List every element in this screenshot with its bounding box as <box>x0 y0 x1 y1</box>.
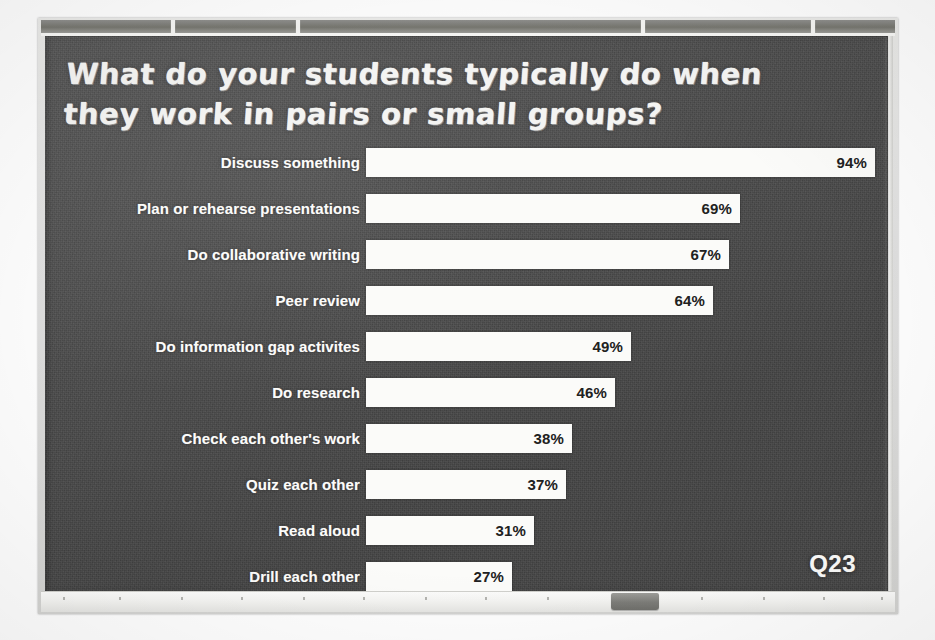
tray-tick <box>763 597 765 600</box>
bar-category-label: Plan or rehearse presentations <box>45 194 360 223</box>
bar-category-label: Do collaborative writing <box>45 240 360 269</box>
bar: 67% <box>366 240 729 269</box>
bar-category-label: Check each other's work <box>45 424 360 453</box>
tray-tick <box>241 597 243 600</box>
chart-row: Plan or rehearse presentations69% <box>45 194 888 240</box>
tray-tick <box>881 597 883 600</box>
bar-category-label: Discuss something <box>45 148 360 177</box>
bar: 27% <box>366 562 512 591</box>
bar-category-label: Drill each other <box>45 562 360 591</box>
bar: 31% <box>366 516 534 545</box>
bar-category-label: Read aloud <box>45 516 360 545</box>
board-eraser <box>611 593 659 610</box>
tray-tick <box>303 597 305 600</box>
tray-tick <box>547 597 549 600</box>
bar: 64% <box>366 286 713 315</box>
slide-title-line-2: they work in pairs or small groups? <box>62 94 865 134</box>
whiteboard-frame: What do your students typically do when … <box>38 18 898 614</box>
bar-category-label: Do research <box>45 378 360 407</box>
chart-row: Read aloud31% <box>45 516 888 562</box>
board-right-highlight-edge <box>889 36 893 592</box>
rail-clip <box>811 20 815 33</box>
tray-tick <box>119 597 121 600</box>
whiteboard-top-rail <box>41 20 895 33</box>
chart-row: Peer review64% <box>45 286 888 332</box>
bar-value-label: 37% <box>527 470 558 499</box>
bar-category-label: Do information gap activites <box>45 332 360 361</box>
bar: 69% <box>366 194 740 223</box>
chart-row: Quiz each other37% <box>45 470 888 516</box>
bar-value-label: 64% <box>674 286 705 315</box>
bar-category-label: Peer review <box>45 286 360 315</box>
rail-clip <box>641 20 645 33</box>
tray-tick <box>363 597 365 600</box>
chart-row: Do collaborative writing67% <box>45 240 888 286</box>
tray-tick <box>823 597 825 600</box>
rail-clip <box>296 20 300 33</box>
tray-tick <box>701 597 703 600</box>
tray-tick <box>485 597 487 600</box>
chart-row: Drill each other27% <box>45 562 888 592</box>
projection-board-surface: What do your students typically do when … <box>45 36 888 592</box>
bar: 37% <box>366 470 566 499</box>
slide-title: What do your students typically do when … <box>62 54 868 134</box>
tray-tick <box>63 597 65 600</box>
tray-tick <box>181 597 183 600</box>
bar: 46% <box>366 378 615 407</box>
bar-value-label: 46% <box>576 378 607 407</box>
slide-title-line-1: What do your students typically do when <box>65 54 868 94</box>
chart-row: Do information gap activites49% <box>45 332 888 378</box>
chart-row: Do research46% <box>45 378 888 424</box>
bar-value-label: 94% <box>836 148 867 177</box>
bar: 38% <box>366 424 572 453</box>
bar: 49% <box>366 332 631 361</box>
question-number-tag: Q23 <box>809 550 856 578</box>
bar-value-label: 49% <box>592 332 623 361</box>
whiteboard-pen-tray <box>41 591 895 612</box>
bar-category-label: Quiz each other <box>45 470 360 499</box>
horizontal-bar-chart: Discuss something94%Plan or rehearse pre… <box>45 148 888 578</box>
rail-clip <box>171 20 175 33</box>
tray-tick <box>425 597 427 600</box>
bar-value-label: 69% <box>701 194 732 223</box>
bar: 94% <box>366 148 875 177</box>
bar-value-label: 38% <box>533 424 564 453</box>
chart-row: Discuss something94% <box>45 148 888 194</box>
photograph-of-whiteboard-slide: What do your students typically do when … <box>0 0 935 640</box>
bar-value-label: 67% <box>690 240 721 269</box>
bar-value-label: 27% <box>473 562 504 591</box>
bar-value-label: 31% <box>495 516 526 545</box>
chart-row: Check each other's work38% <box>45 424 888 470</box>
